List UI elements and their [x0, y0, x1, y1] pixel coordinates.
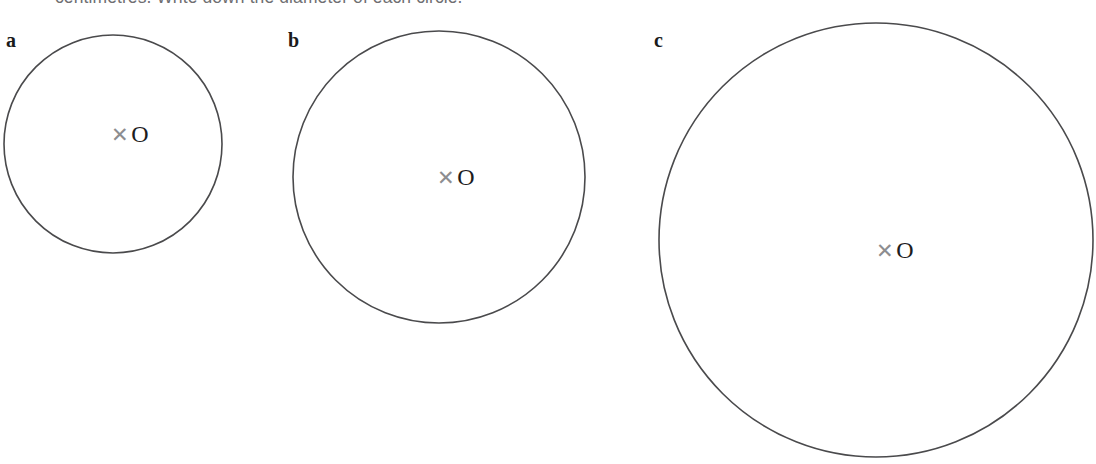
figure-label-c: c	[654, 30, 663, 50]
centre-label-c: O	[896, 238, 913, 262]
worksheet-page: centimetres. Write down the diameter of …	[0, 0, 1096, 464]
cross-icon: ✕	[876, 240, 894, 261]
circle-c-centre-mark: ✕ O	[876, 238, 913, 262]
circle-c-outline	[0, 0, 1096, 464]
